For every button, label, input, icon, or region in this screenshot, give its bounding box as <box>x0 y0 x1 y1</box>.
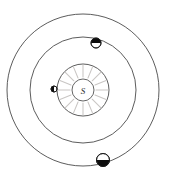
inner-planet <box>51 86 57 92</box>
sun-ray <box>95 80 106 85</box>
sun-label: S <box>81 86 86 96</box>
sun-ray <box>73 67 78 78</box>
sun-ray <box>95 95 106 100</box>
sun-ray <box>60 80 71 85</box>
sun-ray <box>60 95 71 100</box>
outer-planet <box>97 154 110 167</box>
sun-ray <box>65 99 73 107</box>
solar-system-diagram: S <box>0 0 176 180</box>
sun-ray <box>88 102 93 113</box>
sun-ray <box>73 102 78 113</box>
sun-ray <box>88 67 93 78</box>
sun: S <box>72 79 94 101</box>
solar-system-canvas: S <box>0 0 176 180</box>
middle-planet-shadow <box>91 38 101 43</box>
sun-ray <box>92 72 100 80</box>
sun-ray <box>92 99 100 107</box>
outer-planet-shadow <box>97 160 110 167</box>
middle-planet <box>91 38 101 48</box>
sun-ray <box>65 72 73 80</box>
